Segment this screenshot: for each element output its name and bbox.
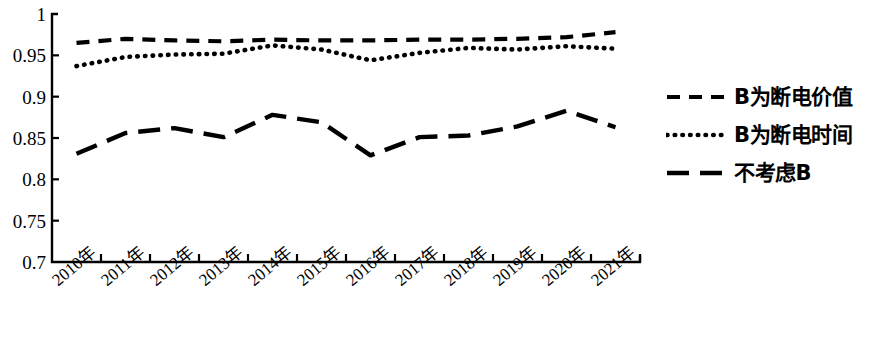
legend-item: B为断电价值 (666, 78, 870, 116)
x-axis-label: 2021年 (588, 243, 638, 289)
legend-label: 不考虑B (734, 163, 811, 184)
legend-line-sample-icon (666, 90, 726, 104)
legend-label: B为断电时间 (734, 125, 852, 146)
legend-line-sample-icon (666, 128, 726, 142)
x-axis-tick-labels: 2010年2011年2012年2013年2014年2015年2016年2017年… (0, 0, 660, 344)
legend-label: B为断电价值 (734, 87, 852, 108)
plot-area: 10.950.90.850.80.750.7 2010年2011年2012年20… (0, 0, 660, 344)
x-axis-label: 2017年 (392, 243, 442, 289)
x-axis-label: 2010年 (49, 243, 99, 289)
legend-item: B为断电时间 (666, 116, 870, 154)
x-axis-label: 2014年 (245, 243, 295, 289)
x-axis-label: 2018年 (441, 243, 491, 289)
chart-legend: B为断电价值B为断电时间不考虑B (666, 78, 870, 192)
legend-item: 不考虑B (666, 154, 870, 192)
x-axis-label: 2011年 (98, 244, 148, 289)
x-axis-label: 2020年 (539, 243, 589, 289)
legend-line-sample-icon (666, 166, 726, 180)
x-axis-label: 2015年 (294, 243, 344, 289)
x-axis-label: 2013年 (196, 243, 246, 289)
x-axis-label: 2019年 (490, 243, 540, 289)
x-axis-label: 2012年 (147, 243, 197, 289)
line-chart: 10.950.90.850.80.750.7 2010年2011年2012年20… (0, 0, 870, 344)
x-axis-label: 2016年 (343, 243, 393, 289)
